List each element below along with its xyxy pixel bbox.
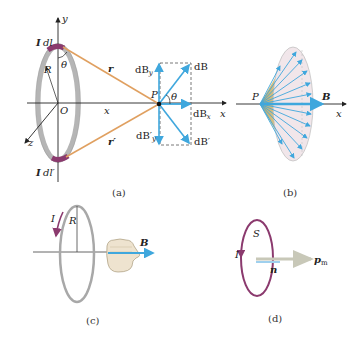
- idl-top-dl: dl: [43, 37, 53, 48]
- y-axis-label: y: [61, 13, 68, 24]
- dB-label: dB: [194, 61, 208, 72]
- dBy-prime-label: dB′y: [136, 130, 157, 143]
- theta-field-label: θ: [171, 91, 177, 102]
- current-label-d: I: [234, 249, 240, 260]
- panel-b: P B x (b): [236, 47, 346, 198]
- area-label-d: S: [253, 228, 260, 239]
- dB-prime-vector: [159, 104, 189, 143]
- dB-prime-label: dB′: [194, 136, 211, 147]
- dBx-label: dBx: [193, 108, 211, 121]
- panel-c: I R B (c): [33, 206, 153, 326]
- x-axis-label-b: x: [336, 108, 342, 119]
- origin-label: O: [60, 105, 68, 116]
- radius-label-c: R: [68, 215, 77, 226]
- idl-top-I: I: [35, 37, 41, 48]
- panel-a: y I dl θ R O z I dl′ r r′ x P θ dBy dB′y…: [25, 13, 226, 198]
- z-axis-label: z: [27, 137, 34, 148]
- idl-bottom-dl: dl′: [43, 167, 56, 178]
- point-P-label-b: P: [251, 91, 259, 102]
- point-P-label: P: [150, 89, 158, 100]
- current-element-bottom: [52, 156, 68, 160]
- caption-a: (a): [112, 187, 126, 198]
- x-axis-label: x: [220, 108, 226, 119]
- caption-d: (d): [268, 313, 282, 324]
- caption-c: (c): [86, 315, 100, 326]
- magnetic-field-ring-diagram: y I dl θ R O z I dl′ r r′ x P θ dBy dB′y…: [0, 0, 351, 346]
- r-label: r: [108, 63, 114, 74]
- x-distance-label: x: [104, 105, 110, 116]
- B-label-c: B: [139, 237, 148, 248]
- theta-top-label: θ: [61, 59, 67, 70]
- caption-b: (b): [283, 187, 297, 198]
- moment-label-d: pm: [314, 254, 328, 267]
- B-label-b: B: [321, 91, 330, 102]
- panel-d: S I n pm (d): [234, 220, 328, 324]
- point-P: [157, 102, 162, 107]
- radius-label: R: [43, 64, 52, 75]
- right-hand-icon: [107, 239, 140, 272]
- idl-bottom-I: I: [35, 167, 41, 178]
- r-prime-label: r′: [108, 136, 116, 147]
- normal-label-d: n: [270, 264, 277, 275]
- dBy-label: dBy: [135, 64, 154, 77]
- current-label-c: I: [50, 213, 56, 224]
